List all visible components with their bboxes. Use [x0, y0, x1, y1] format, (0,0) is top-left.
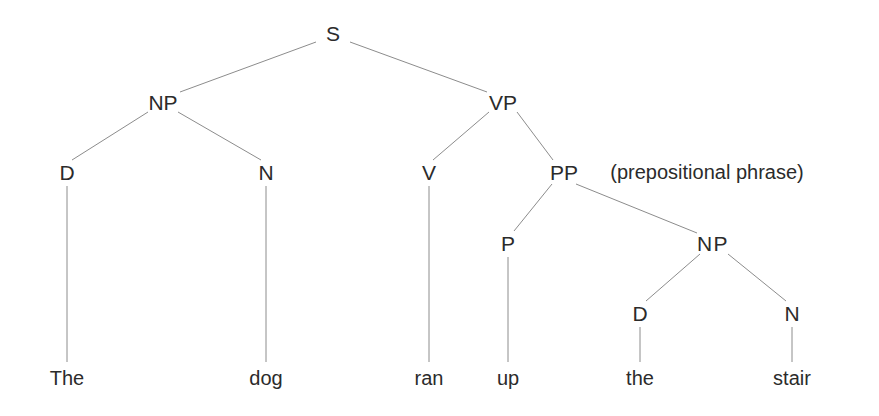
node-pp: PP — [550, 162, 578, 183]
node-np-object: NP — [697, 233, 729, 254]
node-d-subject: D — [59, 162, 74, 183]
tree-node-layer: S NP VP D N V PP (prepositional phrase) … — [0, 0, 879, 416]
node-n-object: N — [784, 303, 799, 324]
node-n-subject: N — [258, 162, 273, 183]
node-np-subject: NP — [148, 92, 177, 113]
leaf-the-subject: The — [50, 368, 84, 388]
node-s: S — [326, 23, 340, 44]
node-d-object: D — [632, 303, 647, 324]
node-vp: VP — [489, 92, 517, 113]
leaf-up: up — [497, 368, 519, 388]
node-pp-annotation: (prepositional phrase) — [610, 162, 803, 182]
leaf-dog: dog — [249, 368, 282, 388]
node-v: V — [422, 162, 436, 183]
leaf-the-object: the — [626, 368, 654, 388]
leaf-stair: stair — [773, 368, 811, 388]
node-p: P — [501, 233, 515, 254]
leaf-ran: ran — [415, 368, 444, 388]
